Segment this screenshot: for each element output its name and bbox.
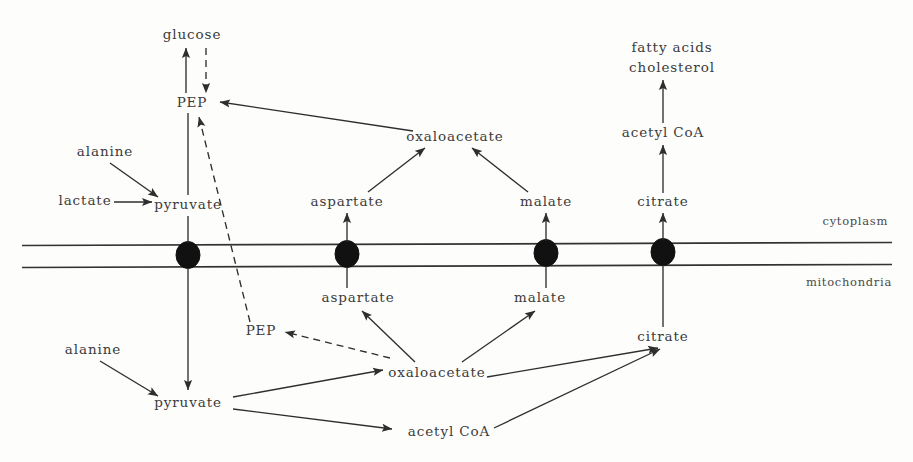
node-pyruvate-cytoplasm: pyruvate	[154, 196, 222, 212]
membrane-outer-line	[22, 243, 892, 246]
mitochondrial-membrane	[22, 239, 892, 269]
edge-acetylcoa-to-citrate-mito	[494, 349, 660, 428]
node-aspartate-cytoplasm: aspartate	[310, 193, 383, 209]
membrane-inner-line	[22, 265, 892, 268]
pathway-diagram-page: glucose PEP alanine lactate pyruvate oxa…	[0, 0, 913, 462]
transporter-aspartate[interactable]	[335, 241, 359, 268]
node-cholesterol: cholesterol	[629, 59, 715, 75]
edge-oxaloacetate-to-aspartate-mito	[362, 311, 415, 362]
edge-oxaloacetate-to-malate-mito	[462, 311, 535, 362]
compartment-labels: cytoplasm mitochondria	[806, 214, 892, 289]
node-alanine-cytoplasm: alanine	[77, 143, 133, 159]
label-cytoplasm: cytoplasm	[823, 214, 889, 228]
node-oxaloacetate-mitochondria: oxaloacetate	[388, 364, 486, 380]
node-aspartate-mitochondria: aspartate	[321, 289, 394, 305]
edge-pep-mito-to-pep-cyto	[199, 117, 250, 322]
node-acetyl-coa-cytoplasm: acetyl CoA	[622, 124, 704, 140]
pathway-diagram-svg: glucose PEP alanine lactate pyruvate oxa…	[0, 0, 913, 462]
edge-pyruvate-to-oxaloacetate-mito	[233, 370, 383, 397]
edge-alanine-to-pyruvate-mito	[100, 361, 158, 396]
edge-aspartate-to-oxaloacetate-cyto	[368, 148, 425, 192]
edge-pyruvate-to-acetylcoa-mito	[233, 409, 392, 429]
node-lactate: lactate	[58, 192, 111, 208]
node-citrate-mitochondria: citrate	[637, 328, 689, 344]
pep-shuttle-edges	[199, 117, 390, 358]
node-alanine-mitochondria: alanine	[65, 341, 121, 357]
label-mitochondria: mitochondria	[806, 275, 892, 289]
node-glucose: glucose	[163, 26, 222, 42]
transporter-pyruvate[interactable]	[176, 242, 200, 269]
node-acetyl-coa-mitochondria: acetyl CoA	[408, 423, 490, 439]
node-citrate-cytoplasm: citrate	[637, 193, 689, 209]
cytoplasm-edges	[110, 48, 663, 243]
node-pep-cytoplasm: PEP	[177, 94, 208, 110]
node-malate-mitochondria: malate	[514, 289, 566, 305]
node-pyruvate-mitochondria: pyruvate	[154, 394, 222, 410]
node-labels: glucose PEP alanine lactate pyruvate oxa…	[58, 26, 714, 439]
edge-oxaloacetate-to-pep-mito	[285, 332, 390, 358]
edge-malate-to-oxaloacetate-cyto	[472, 148, 528, 192]
node-fatty-acids: fatty acids	[631, 39, 712, 55]
node-pep-mitochondria: PEP	[246, 322, 277, 338]
edge-alanine-to-pyruvate	[110, 163, 158, 197]
transporter-malate[interactable]	[534, 240, 558, 267]
transporter-citrate[interactable]	[651, 239, 675, 266]
edge-oxaloacetate-to-pep-cyto	[220, 102, 413, 131]
node-oxaloacetate-cytoplasm: oxaloacetate	[406, 128, 504, 144]
node-malate-cytoplasm: malate	[520, 193, 572, 209]
